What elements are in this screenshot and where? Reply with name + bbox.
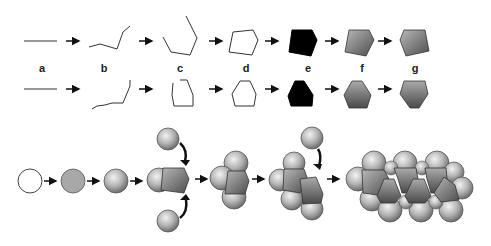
pentagon-e (289, 30, 317, 56)
assembly-diagram (0, 0, 491, 246)
double-unit (269, 127, 323, 220)
empty-circle (18, 169, 42, 193)
step-label-c: c (177, 62, 183, 74)
shaded-sphere (104, 169, 128, 193)
chain-b2 (92, 80, 130, 109)
triple-assembly (210, 151, 249, 209)
chain-c (163, 16, 197, 55)
step-label-d: d (243, 62, 250, 74)
pentagon-row (24, 16, 429, 56)
sphere-pentagon-unit (147, 128, 190, 232)
step-label-b: b (101, 62, 108, 74)
step-label-g: g (412, 62, 419, 74)
assembly-sequence (18, 127, 473, 232)
chain-c2 (172, 80, 193, 106)
hexagon-row (24, 80, 428, 109)
step-label-e: e (305, 62, 311, 74)
pentagon-f (345, 30, 374, 56)
pentagon-d (229, 30, 258, 55)
gray-sphere (61, 169, 85, 193)
step-label-f: f (360, 62, 364, 74)
chain-b (89, 26, 130, 49)
final-cluster (346, 151, 473, 222)
hexagon-g (400, 81, 428, 108)
hexagon-f (344, 81, 371, 108)
hexagon-e (288, 81, 313, 106)
step-label-a: a (39, 62, 45, 74)
pentagon-g (400, 30, 429, 56)
hexagon-d (232, 81, 256, 106)
